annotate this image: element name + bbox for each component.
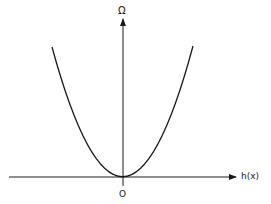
x-axis-label: h(x) <box>241 172 259 181</box>
origin-label: O <box>119 190 126 199</box>
y-axis-label: Ω <box>118 6 126 16</box>
diagram-canvas <box>0 0 271 204</box>
